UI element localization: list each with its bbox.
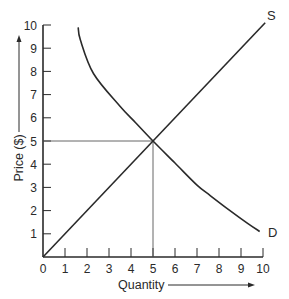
- x-tick-label: 8: [216, 262, 223, 276]
- y-axis-title: Price ($): [12, 134, 26, 181]
- supply-demand-chart: 12345678910012345678910SDQuantityPrice (…: [0, 0, 289, 299]
- y-tick-label: 9: [30, 42, 37, 56]
- x-tick-label: 9: [238, 262, 245, 276]
- x-tick-label: 10: [256, 262, 270, 276]
- y-axis-arrowhead-icon: [17, 35, 22, 42]
- y-tick-label: 10: [24, 19, 38, 33]
- plot-area: 12345678910012345678910SDQuantityPrice (…: [12, 8, 277, 292]
- x-tick-label: 5: [150, 262, 157, 276]
- y-tick-label: 2: [30, 204, 37, 218]
- x-tick-label: 1: [62, 262, 69, 276]
- x-tick-label: 2: [84, 262, 91, 276]
- supply-label: S: [267, 8, 276, 23]
- x-tick-label: 3: [106, 262, 113, 276]
- x-tick-label: 0: [40, 262, 47, 276]
- x-tick-label: 6: [172, 262, 179, 276]
- x-axis-arrowhead-icon: [248, 283, 255, 288]
- y-tick-label: 3: [30, 181, 37, 195]
- y-tick-label: 1: [30, 227, 37, 241]
- y-tick-label: 8: [30, 65, 37, 79]
- y-tick-label: 6: [30, 111, 37, 125]
- y-tick-label: 4: [30, 158, 37, 172]
- y-tick-label: 5: [30, 135, 37, 149]
- x-tick-label: 4: [128, 262, 135, 276]
- demand-label: D: [268, 225, 277, 240]
- y-tick-label: 7: [30, 88, 37, 102]
- x-tick-label: 7: [194, 262, 201, 276]
- supply-curve: [43, 23, 265, 257]
- x-axis-title: Quantity: [118, 278, 165, 292]
